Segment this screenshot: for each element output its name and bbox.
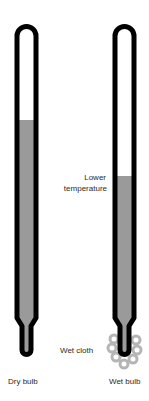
thermometer-diagram: [0, 0, 149, 401]
dry-bulb-thermometer: [17, 27, 36, 355]
lower-label: Lower: [82, 173, 106, 182]
dry-bulb-label: Dry bulb: [8, 377, 38, 386]
wet-cloth-label: Wet cloth: [60, 346, 93, 355]
wet-bulb-thermometer: [115, 27, 134, 355]
wet-bulb-label: Wet bulb: [109, 377, 140, 386]
temperature-label: temperature: [57, 184, 107, 193]
